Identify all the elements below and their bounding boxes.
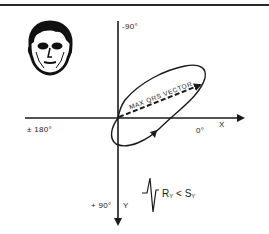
x-axis-label: X: [219, 120, 225, 129]
axis-label-minus-90: -90°: [122, 22, 138, 31]
qrs-complex-waveform-icon: [142, 178, 159, 212]
y-axis-label: Y: [123, 201, 129, 210]
equation-rhs-sub: Y: [191, 193, 195, 199]
human-face-icon: [28, 22, 72, 74]
diagram-canvas: [0, 0, 269, 234]
axis-label-0: 0°: [196, 126, 204, 135]
axis-label-plus-minus-180: ± 180°: [27, 125, 52, 134]
qrs-loop: [112, 65, 206, 146]
amplitude-relation-equation: RY < SY: [162, 188, 195, 199]
axis-label-plus-90: + 90°: [91, 201, 112, 210]
equation-lhs-sub: Y: [169, 193, 173, 199]
max-qrs-vector-arrow: [119, 85, 200, 117]
equation-operator: <: [176, 188, 182, 199]
